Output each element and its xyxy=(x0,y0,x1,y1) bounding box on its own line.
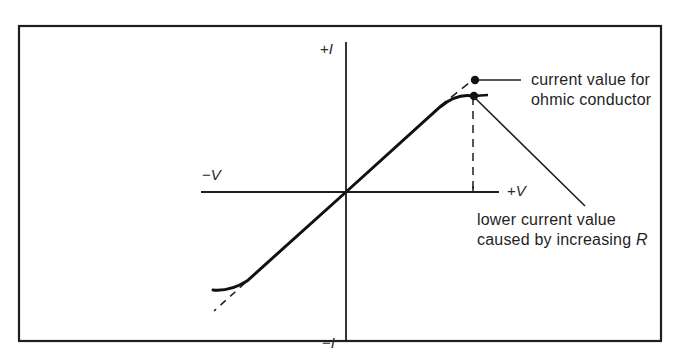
x-negative-sign: − xyxy=(202,166,211,183)
y-positive-label: +I xyxy=(320,40,333,58)
x-positive-symbol: V xyxy=(516,182,526,199)
iv-characteristic-diagram: +I −I −V +V current value for ohmic cond… xyxy=(0,0,692,363)
lower-current-annotation: lower current value caused by increasing… xyxy=(477,210,648,250)
y-negative-symbol: I xyxy=(331,334,335,351)
ohmic-annotation-line1: current value for xyxy=(531,70,651,90)
lower-annotation-line1: lower current value xyxy=(477,210,648,230)
ohmic-annotation-line2: ohmic conductor xyxy=(531,90,651,110)
x-negative-symbol: V xyxy=(211,166,221,183)
y-negative-label: −I xyxy=(322,334,335,352)
diagram-canvas xyxy=(0,0,692,363)
x-positive-label: +V xyxy=(507,182,526,200)
x-positive-sign: + xyxy=(507,182,516,199)
y-negative-sign: − xyxy=(322,334,331,351)
y-positive-symbol: I xyxy=(329,40,333,57)
lower-label-leader xyxy=(474,97,585,206)
lower-annotation-line2: caused by increasing R xyxy=(477,230,648,250)
resistance-symbol: R xyxy=(636,231,648,248)
y-positive-sign: + xyxy=(320,40,329,57)
ohmic-annotation: current value for ohmic conductor xyxy=(531,70,651,110)
x-negative-label: −V xyxy=(202,166,221,184)
lower-annotation-line2-text: caused by increasing xyxy=(477,231,636,248)
